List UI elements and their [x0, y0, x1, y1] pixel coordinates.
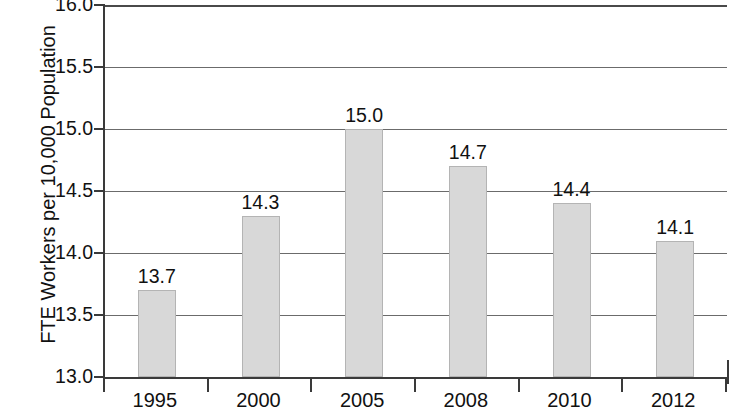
x-tick-label-2005: 2005: [310, 388, 414, 412]
bar-value-label-2005: 15.0: [324, 105, 404, 125]
bar-2010[interactable]: [553, 203, 591, 377]
gridline: [105, 129, 727, 130]
y-tick-label-15-5: 15.5: [33, 57, 93, 77]
y-tick-label-13-5: 13.5: [33, 305, 93, 325]
bar-2000[interactable]: [242, 216, 280, 377]
bar-value-label-2010: 14.4: [532, 179, 612, 199]
y-tick-label-13-0: 13.0: [33, 367, 93, 387]
x-axis-tick-labels: 199520002005200820102012: [103, 388, 725, 415]
bar-chart-figure: FTE Workers per 10,000 Population 16.0 1…: [0, 0, 731, 415]
plot-area: 13.714.315.014.714.414.1: [103, 5, 727, 377]
x-tick-label-2000: 2000: [207, 388, 311, 412]
bar-value-label-2008: 14.7: [428, 142, 508, 162]
gridline: [105, 191, 727, 192]
bar-1995[interactable]: [138, 290, 176, 377]
x-tick-label-2010: 2010: [518, 388, 622, 412]
y-tick-label-14-5: 14.5: [33, 181, 93, 201]
gridline: [105, 5, 727, 7]
x-tick-label-1995: 1995: [103, 388, 207, 412]
y-tick-label-15-0: 15.0: [33, 119, 93, 139]
gridline: [105, 67, 727, 68]
y-tick-label-16-0: 16.0: [33, 0, 93, 15]
gridline: [105, 315, 727, 316]
x-tick-mark: [725, 379, 727, 392]
x-tick-label-2012: 2012: [621, 388, 725, 412]
y-axis-tick-labels: 16.0 15.5 15.0 14.5 14.0 13.5 13.0: [31, 0, 93, 415]
gridline: [105, 253, 727, 254]
x-tick-label-2008: 2008: [414, 388, 518, 412]
y-tick-label-14-0: 14.0: [33, 243, 93, 263]
bar-2012[interactable]: [656, 241, 694, 377]
bar-value-label-1995: 13.7: [117, 266, 197, 286]
bar-2008[interactable]: [449, 166, 487, 377]
bar-value-label-2000: 14.3: [221, 192, 301, 212]
bar-2005[interactable]: [345, 129, 383, 377]
bar-value-label-2012: 14.1: [635, 217, 715, 237]
plot-right-edge: [727, 360, 729, 384]
